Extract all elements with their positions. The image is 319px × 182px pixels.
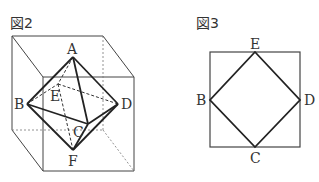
fig3-label-B: B <box>196 92 206 108</box>
fig3-label-E: E <box>250 36 260 52</box>
figure3-title: 図3 <box>196 15 219 31</box>
cube-back-visible <box>12 36 103 130</box>
label-B: B <box>14 96 24 112</box>
fig3-label-D: D <box>304 92 315 108</box>
fig3-label-C: C <box>250 150 261 166</box>
diagram-canvas: 図2 A B C D E F 図3 E B D C <box>0 0 319 182</box>
cube-edge-tr <box>103 36 134 77</box>
label-C: C <box>73 124 84 140</box>
cube-edge-bl <box>12 130 43 171</box>
outer-square <box>210 52 300 147</box>
label-E: E <box>50 88 60 104</box>
inner-square <box>210 52 300 147</box>
cube-edge-tl <box>12 36 43 77</box>
label-A: A <box>66 41 78 57</box>
label-D: D <box>121 96 132 112</box>
label-F: F <box>68 153 78 169</box>
figure2-title: 図2 <box>10 15 33 31</box>
